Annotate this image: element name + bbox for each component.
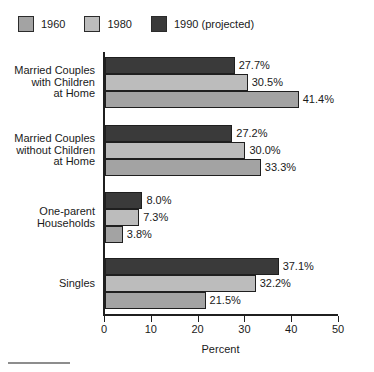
bar[interactable]	[105, 258, 279, 275]
bar-value-label: 30.0%	[249, 142, 280, 159]
category-label: Married Couples with Children at Home	[14, 65, 95, 100]
bar-value-label: 27.2%	[236, 125, 267, 142]
x-axis-title: Percent	[103, 344, 338, 355]
bar-chart: 1960 1980 1990 (projected) 01020304050 2…	[0, 0, 374, 372]
bar-value-label: 32.2%	[260, 275, 291, 292]
x-tick-label-30: 30	[229, 324, 259, 335]
x-tick-label-10: 10	[136, 324, 166, 335]
x-tick-label-0: 0	[89, 324, 119, 335]
x-tick-30	[244, 316, 245, 322]
x-tick-10	[151, 316, 152, 322]
bar[interactable]	[105, 125, 232, 142]
bar-value-label: 27.7%	[239, 57, 270, 74]
bar[interactable]	[105, 142, 245, 159]
bar[interactable]	[105, 57, 235, 74]
x-tick-0	[104, 316, 105, 322]
footer-rule	[8, 362, 70, 364]
bar-value-label: 30.5%	[252, 74, 283, 91]
category-label: One-parent Households	[37, 206, 95, 229]
bar-value-label: 8.0%	[146, 192, 171, 209]
x-tick-label-20: 20	[183, 324, 213, 335]
x-axis-line	[103, 314, 338, 316]
bar-value-label: 33.3%	[265, 159, 296, 176]
bar[interactable]	[105, 192, 142, 209]
bar[interactable]	[105, 74, 248, 91]
bar-value-label: 7.3%	[143, 209, 168, 226]
plot-area: 01020304050 27.7%30.5%41.4%27.2%30.0%33.…	[0, 0, 374, 372]
x-tick-50	[338, 316, 339, 322]
bar[interactable]	[105, 91, 299, 108]
bar-value-label: 37.1%	[283, 258, 314, 275]
bar[interactable]	[105, 226, 123, 243]
bar[interactable]	[105, 209, 139, 226]
x-tick-label-40: 40	[276, 324, 306, 335]
category-label: Married Couples without Children at Home	[14, 133, 95, 168]
x-tick-label-50: 50	[323, 324, 353, 335]
bar-value-label: 3.8%	[127, 226, 152, 243]
bar-value-label: 21.5%	[210, 292, 241, 309]
bar[interactable]	[105, 159, 261, 176]
x-tick-40	[291, 316, 292, 322]
bar[interactable]	[105, 275, 256, 292]
bar-value-label: 41.4%	[303, 91, 334, 108]
category-label: Singles	[59, 278, 95, 290]
x-tick-20	[198, 316, 199, 322]
bar[interactable]	[105, 292, 206, 309]
